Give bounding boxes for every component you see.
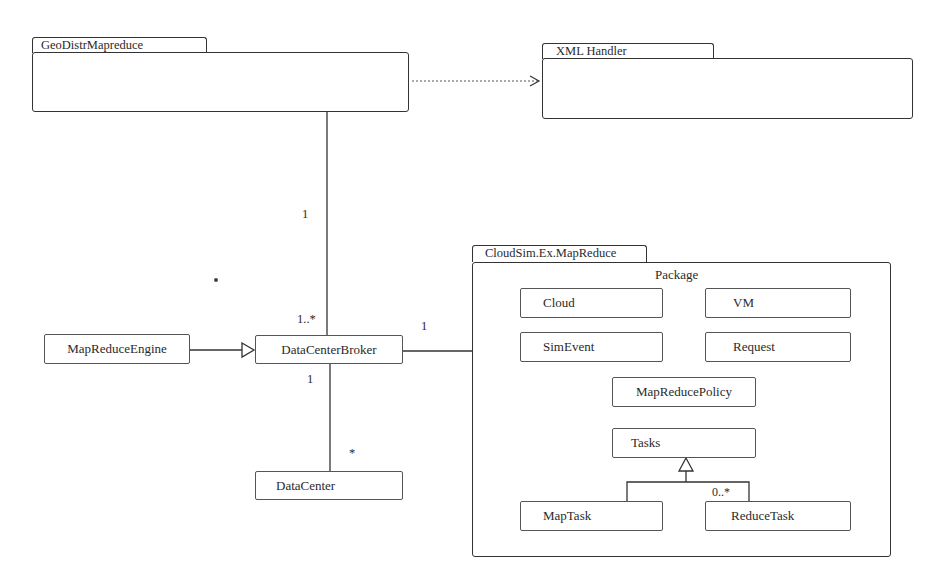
class-mapreduceengine[interactable]: MapReduceEngine xyxy=(44,334,190,364)
class-vm[interactable]: VM xyxy=(705,288,851,318)
package-name-xml-handler: XML Handler xyxy=(556,44,627,58)
class-cloud[interactable]: Cloud xyxy=(520,288,663,318)
multiplicity-broker-to-datacenter: 1 xyxy=(307,372,313,387)
class-name: MapReducePolicy xyxy=(636,384,732,400)
class-name: SimEvent xyxy=(543,339,594,355)
package-tab-xml-handler: XML Handler xyxy=(542,43,714,59)
class-datacenter[interactable]: DataCenter xyxy=(255,471,403,500)
class-name: DataCenterBroker xyxy=(281,342,376,358)
multiplicity-reduce-task: 0..* xyxy=(712,485,730,500)
class-name: Cloud xyxy=(543,295,575,311)
class-name: MapReduceEngine xyxy=(67,341,167,357)
class-name: MapTask xyxy=(543,508,591,524)
class-reducetask[interactable]: ReduceTask xyxy=(705,501,851,531)
multiplicity-broker-from-geo: 1..* xyxy=(297,312,316,327)
class-simevent[interactable]: SimEvent xyxy=(520,332,663,362)
class-name: ReduceTask xyxy=(731,508,794,524)
class-name: DataCenter xyxy=(276,478,335,494)
class-tasks[interactable]: Tasks xyxy=(612,428,756,458)
class-mapreducepolicy[interactable]: MapReducePolicy xyxy=(612,377,756,407)
class-name: Request xyxy=(733,339,775,355)
package-stereotype-label: Package xyxy=(655,267,698,283)
package-name-cloudsim: CloudSim.Ex.MapReduce xyxy=(485,246,616,260)
multiplicity-broker-to-package: 1 xyxy=(421,319,427,334)
multiplicity-datacenter-end: * xyxy=(349,446,355,461)
package-xml-handler[interactable] xyxy=(542,58,913,119)
class-datacenterbroker[interactable]: DataCenterBroker xyxy=(255,335,403,364)
package-tab-geodistrmapreduce: GeoDistrMapreduce xyxy=(32,37,207,53)
class-name: Tasks xyxy=(631,435,660,451)
package-geodistrmapreduce[interactable] xyxy=(32,52,409,112)
class-name: VM xyxy=(733,295,754,311)
package-name-geodistrmapreduce: GeoDistrMapreduce xyxy=(41,38,143,52)
class-maptask[interactable]: MapTask xyxy=(520,501,663,531)
generalization-triangle-icon xyxy=(242,343,254,357)
stray-dot xyxy=(214,278,218,282)
package-tab-cloudsim: CloudSim.Ex.MapReduce xyxy=(472,245,647,262)
multiplicity-geo-end: 1 xyxy=(302,207,308,222)
class-request[interactable]: Request xyxy=(705,332,851,362)
